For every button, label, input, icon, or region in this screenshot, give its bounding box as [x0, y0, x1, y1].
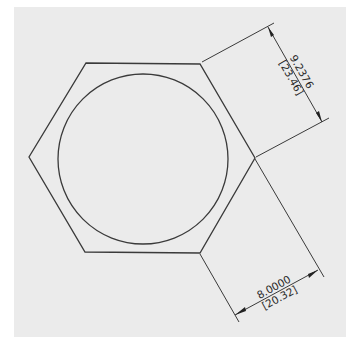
technical-drawing: 9.2376 [23.46] 8.0000 [20.32]	[0, 0, 358, 355]
